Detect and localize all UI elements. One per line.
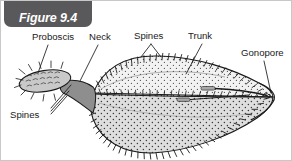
figure-number-text: Figure 9.4 — [19, 12, 77, 25]
figure-container: Figure 9.4 Proboscis Neck Spines Trunk G… — [0, 0, 292, 161]
label-neck: Neck — [89, 32, 111, 42]
label-proboscis: Proboscis — [32, 32, 74, 42]
label-spines-left: Spines — [10, 110, 39, 120]
label-trunk: Trunk — [188, 31, 212, 41]
proboscis-organ — [15, 61, 73, 101]
label-gonopore: Gonopore — [241, 48, 284, 58]
figure-number-badge: Figure 9.4 — [4, 0, 92, 27]
trunk-body — [91, 56, 275, 153]
label-spines-top: Spines — [134, 31, 163, 41]
